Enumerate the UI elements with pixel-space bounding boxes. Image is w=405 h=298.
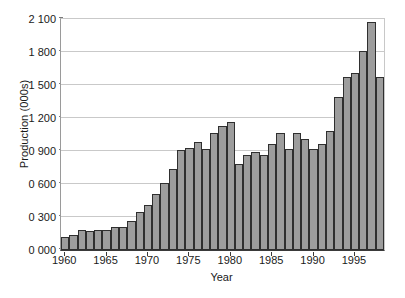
x-axis-title: Year bbox=[60, 271, 383, 283]
bar bbox=[152, 194, 160, 250]
bar bbox=[78, 230, 86, 250]
bar bbox=[326, 131, 334, 250]
x-axis-tick-mark bbox=[230, 252, 231, 256]
bar bbox=[293, 133, 301, 250]
bar bbox=[359, 51, 367, 250]
bar bbox=[276, 133, 284, 250]
bar bbox=[202, 149, 210, 250]
bar bbox=[144, 205, 152, 250]
bar bbox=[194, 142, 202, 250]
bar bbox=[309, 149, 317, 250]
bar bbox=[351, 73, 359, 250]
bar bbox=[260, 155, 268, 250]
x-axis-tick-labels: 19601965197019751980198519901995 bbox=[60, 252, 383, 270]
bar bbox=[61, 237, 69, 250]
x-axis-tick-mark bbox=[64, 252, 65, 256]
x-axis-tick-mark bbox=[354, 252, 355, 256]
x-axis-tick-mark bbox=[271, 252, 272, 256]
x-axis-tick-mark bbox=[313, 252, 314, 256]
bar bbox=[111, 227, 119, 250]
x-axis-tick-mark bbox=[147, 252, 148, 256]
bar bbox=[102, 230, 110, 250]
bars-layer bbox=[61, 19, 384, 250]
bar bbox=[301, 139, 309, 250]
bar bbox=[243, 155, 251, 250]
bar bbox=[318, 144, 326, 250]
y-axis-tick-labels: 0 0000 3000 6000 9001 2001 5001 8002 100 bbox=[0, 18, 56, 249]
bar bbox=[86, 231, 94, 250]
bar bbox=[376, 77, 384, 250]
y-axis-tick-label: 1 800 bbox=[0, 46, 56, 58]
bar bbox=[169, 169, 177, 250]
x-axis-tick-mark bbox=[188, 252, 189, 256]
bar bbox=[343, 77, 351, 250]
bar bbox=[251, 152, 259, 250]
bar bbox=[177, 150, 185, 250]
bar bbox=[119, 227, 127, 250]
bar bbox=[127, 221, 135, 250]
y-axis-tick-label: 1 200 bbox=[0, 112, 56, 124]
y-axis-tick-label: 0 300 bbox=[0, 211, 56, 223]
y-axis-tick-label: 0 900 bbox=[0, 145, 56, 157]
y-axis-tick-label: 0 600 bbox=[0, 178, 56, 190]
bar bbox=[334, 97, 342, 250]
bar bbox=[268, 144, 276, 250]
bar bbox=[136, 212, 144, 250]
bar bbox=[94, 230, 102, 250]
production-bar-chart: Production (000s) 0 0000 3000 6000 9001 … bbox=[0, 0, 405, 298]
bar bbox=[69, 235, 77, 250]
bar bbox=[235, 164, 243, 250]
plot-area bbox=[60, 18, 385, 251]
y-axis-tick-label: 1 500 bbox=[0, 79, 56, 91]
bar bbox=[210, 133, 218, 250]
bar bbox=[285, 149, 293, 250]
bar bbox=[160, 183, 168, 250]
bar bbox=[227, 122, 235, 250]
bar bbox=[367, 22, 375, 250]
bar bbox=[185, 148, 193, 250]
x-axis-tick-mark bbox=[106, 252, 107, 256]
y-axis-tick-label: 2 100 bbox=[0, 13, 56, 25]
bar bbox=[218, 126, 226, 250]
